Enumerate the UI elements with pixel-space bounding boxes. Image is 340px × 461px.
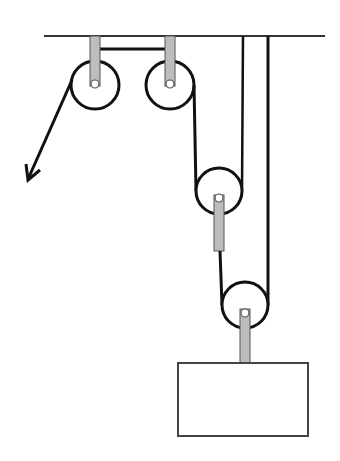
movable-pulley-2-axle: [241, 309, 249, 317]
rope-segment-4: [220, 251, 222, 305]
rope-segment-2: [194, 85, 196, 191]
rope-segment-3: [242, 36, 243, 191]
fixed-pulley-1-bracket: [90, 36, 100, 86]
fixed-pulley-1-axle: [91, 80, 99, 88]
load-box: [178, 363, 308, 436]
pulley-diagram: [0, 0, 340, 461]
rope-pull-end: [29, 80, 72, 177]
movable-pulley-1-axle: [215, 194, 223, 202]
movable-pulley-1-rod: [214, 195, 224, 251]
fixed-pulley-2-bracket: [165, 36, 175, 86]
fixed-pulley-2-axle: [166, 80, 174, 88]
